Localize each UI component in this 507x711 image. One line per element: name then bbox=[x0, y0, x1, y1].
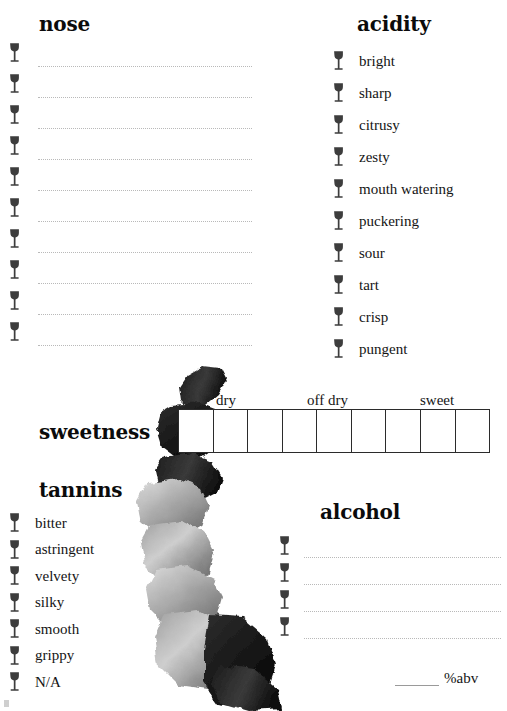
nose-note-row[interactable] bbox=[0, 135, 260, 166]
sweetness-tick-off-dry: off dry bbox=[307, 392, 348, 409]
wine-glass-icon bbox=[8, 290, 21, 312]
sweetness-scale-cell[interactable] bbox=[317, 410, 352, 452]
wine-glass-icon bbox=[8, 321, 21, 343]
nose-note-row[interactable] bbox=[0, 259, 260, 290]
wine-glass-icon bbox=[278, 535, 291, 557]
acidity-option-pungent[interactable]: pungent bbox=[332, 333, 454, 365]
abv-input[interactable] bbox=[395, 671, 439, 686]
wine-glass-icon bbox=[8, 259, 21, 281]
nose-write-in-line[interactable] bbox=[38, 283, 252, 284]
alcohol-write-in-line[interactable] bbox=[304, 557, 501, 558]
wine-glass-icon bbox=[8, 42, 21, 64]
abv-field[interactable]: %abv bbox=[395, 662, 507, 686]
nose-write-in-line[interactable] bbox=[38, 128, 252, 129]
wine-tasting-note-page: nose bbox=[0, 0, 507, 711]
wine-glass-icon bbox=[8, 135, 21, 157]
nose-write-in-line[interactable] bbox=[38, 314, 252, 315]
acidity-option-label: crisp bbox=[359, 310, 388, 325]
nose-write-in-line[interactable] bbox=[38, 345, 252, 346]
tannins-option-silky[interactable]: silky bbox=[8, 590, 94, 617]
acidity-option-sharp[interactable]: sharp bbox=[332, 77, 454, 109]
acidity-option-label: sharp bbox=[359, 86, 392, 101]
acidity-option-citrusy[interactable]: citrusy bbox=[332, 109, 454, 141]
corner-mark bbox=[4, 700, 9, 707]
acidity-option-label: mouth watering bbox=[359, 182, 454, 197]
nose-note-row[interactable] bbox=[0, 104, 260, 135]
abv-label: %abv bbox=[444, 671, 478, 686]
sweetness-scale-cell[interactable] bbox=[421, 410, 456, 452]
wine-glass-icon bbox=[332, 306, 345, 328]
acidity-option-label: sour bbox=[359, 246, 385, 261]
acidity-option-mouth-watering[interactable]: mouth watering bbox=[332, 173, 454, 205]
acidity-option-label: tart bbox=[359, 278, 379, 293]
wine-glass-icon bbox=[332, 146, 345, 168]
alcohol-write-in-line[interactable] bbox=[304, 638, 501, 639]
acidity-option-bright[interactable]: bright bbox=[332, 45, 454, 77]
acidity-option-puckering[interactable]: puckering bbox=[332, 205, 454, 237]
tannins-option-label: silky bbox=[35, 595, 64, 610]
wine-glass-icon bbox=[8, 512, 21, 534]
wine-glass-icon bbox=[8, 228, 21, 250]
wine-glass-icon bbox=[278, 616, 291, 638]
nose-note-row[interactable] bbox=[0, 166, 260, 197]
alcohol-note-row[interactable] bbox=[276, 562, 507, 589]
tannins-option-astringent[interactable]: astringent bbox=[8, 537, 94, 564]
sweetness-scale-cell[interactable] bbox=[214, 410, 249, 452]
tannins-option-label: grippy bbox=[35, 648, 74, 663]
sweetness-scale-cell[interactable] bbox=[456, 410, 490, 452]
sweetness-scale-cell[interactable] bbox=[283, 410, 318, 452]
tannins-option-smooth[interactable]: smooth bbox=[8, 616, 94, 643]
alcohol-write-in-line[interactable] bbox=[304, 611, 501, 612]
nose-note-row[interactable] bbox=[0, 290, 260, 321]
alcohol-note-row[interactable] bbox=[276, 616, 507, 643]
nose-write-in-line[interactable] bbox=[38, 66, 252, 67]
wine-glass-icon bbox=[8, 565, 21, 587]
nose-write-in-line[interactable] bbox=[38, 190, 252, 191]
nose-heading: nose bbox=[39, 12, 90, 36]
acidity-option-label: bright bbox=[359, 54, 395, 69]
wine-glass-icon bbox=[332, 274, 345, 296]
acidity-option-crisp[interactable]: crisp bbox=[332, 301, 454, 333]
sweetness-scale-cell[interactable] bbox=[179, 410, 214, 452]
acidity-option-label: puckering bbox=[359, 214, 419, 229]
tannins-option-velvety[interactable]: velvety bbox=[8, 563, 94, 590]
acidity-option-tart[interactable]: tart bbox=[332, 269, 454, 301]
acidity-option-label: zesty bbox=[359, 150, 390, 165]
nose-write-in-line[interactable] bbox=[38, 159, 252, 160]
wine-glass-icon bbox=[8, 166, 21, 188]
wine-glass-icon bbox=[8, 645, 21, 667]
wine-glass-icon bbox=[278, 589, 291, 611]
nose-note-row[interactable] bbox=[0, 42, 260, 73]
nose-write-in-line[interactable] bbox=[38, 97, 252, 98]
nose-note-row[interactable] bbox=[0, 321, 260, 352]
sweetness-scale[interactable] bbox=[178, 409, 490, 453]
acidity-option-sour[interactable]: sour bbox=[332, 237, 454, 269]
nose-note-row[interactable] bbox=[0, 73, 260, 104]
tannins-option-bitter[interactable]: bitter bbox=[8, 510, 94, 537]
nose-write-in-line[interactable] bbox=[38, 252, 252, 253]
tannins-option-label: astringent bbox=[35, 542, 94, 557]
tannins-options-list: bitter astringent velvety silky smooth g… bbox=[8, 510, 94, 696]
tannins-option-na[interactable]: N/A bbox=[8, 669, 94, 696]
nose-write-in-line[interactable] bbox=[38, 221, 252, 222]
tannins-option-label: bitter bbox=[35, 516, 67, 531]
wine-glass-icon bbox=[8, 197, 21, 219]
alcohol-write-in-line[interactable] bbox=[304, 584, 501, 585]
acidity-option-zesty[interactable]: zesty bbox=[332, 141, 454, 173]
alcohol-note-row[interactable] bbox=[276, 589, 507, 616]
tannins-option-grippy[interactable]: grippy bbox=[8, 643, 94, 670]
sweetness-scale-cell[interactable] bbox=[386, 410, 421, 452]
nose-note-row[interactable] bbox=[0, 228, 260, 259]
wine-glass-icon bbox=[332, 242, 345, 264]
sweetness-scale-cell[interactable] bbox=[352, 410, 387, 452]
wine-glass-icon bbox=[332, 178, 345, 200]
sweetness-scale-cell[interactable] bbox=[248, 410, 283, 452]
wine-glass-icon bbox=[8, 73, 21, 95]
tannins-option-label: velvety bbox=[35, 569, 79, 584]
nose-note-row[interactable] bbox=[0, 197, 260, 228]
alcohol-note-row[interactable] bbox=[276, 535, 507, 562]
wine-glass-icon bbox=[332, 114, 345, 136]
alcohol-notes-list bbox=[276, 535, 507, 643]
wine-glass-icon bbox=[8, 671, 21, 693]
wine-glass-icon bbox=[8, 592, 21, 614]
